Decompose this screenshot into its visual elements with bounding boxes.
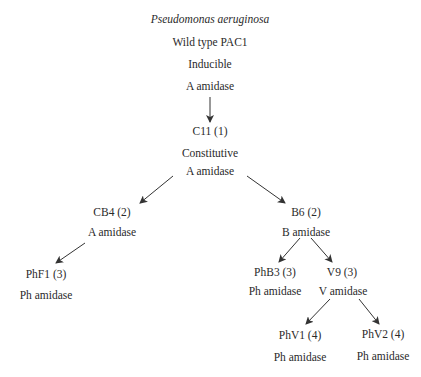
node-phb3-enzyme: Ph amidase xyxy=(249,285,302,298)
node-b6-enzyme: B amidase xyxy=(282,226,330,239)
root-enzyme-label: A amidase xyxy=(186,80,234,93)
node-cb4-enzyme: A amidase xyxy=(88,226,136,239)
node-c11-strain: C11 (1) xyxy=(192,125,227,138)
arrow-b6-to-v9 xyxy=(311,238,332,262)
node-phv2-enzyme: Ph amidase xyxy=(357,350,410,363)
arrows-layer xyxy=(0,0,421,377)
root-regulation-label: Inducible xyxy=(188,58,231,71)
root-species-label: Pseudomonas aeruginosa xyxy=(151,13,270,26)
amidase-mutant-lineage-diagram: Pseudomonas aeruginosa Wild type PAC1 In… xyxy=(0,0,421,377)
arrow-b6-to-phb3 xyxy=(279,238,300,262)
node-phv1-enzyme: Ph amidase xyxy=(274,351,327,364)
arrow-v9-to-phv1 xyxy=(306,299,330,324)
node-phf1-enzyme: Ph amidase xyxy=(20,289,73,302)
node-phv2-strain: PhV2 (4) xyxy=(362,328,405,341)
node-c11-regulation: Constitutive xyxy=(182,147,238,160)
node-phv1-strain: PhV1 (4) xyxy=(279,329,322,342)
node-c11-enzyme: A amidase xyxy=(186,165,234,178)
arrow-c11-to-b6 xyxy=(247,176,285,203)
node-cb4-strain: CB4 (2) xyxy=(93,206,130,219)
arrow-c11-to-cb4 xyxy=(140,176,173,203)
arrow-cb4-to-phf1 xyxy=(56,243,85,263)
node-v9-enzyme: V amidase xyxy=(319,285,368,298)
root-strain-label: Wild type PAC1 xyxy=(172,36,247,49)
node-b6-strain: B6 (2) xyxy=(291,206,321,219)
arrow-v9-to-phv2 xyxy=(359,299,379,324)
node-phf1-strain: PhF1 (3) xyxy=(26,268,67,281)
node-v9-strain: V9 (3) xyxy=(327,266,357,279)
node-phb3-strain: PhB3 (3) xyxy=(254,266,296,279)
